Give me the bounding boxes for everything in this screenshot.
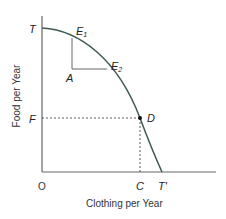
y-axis-title: Food per Year <box>11 64 22 127</box>
label-e1: E1 <box>76 25 87 38</box>
point-d <box>138 116 142 120</box>
label-d: D <box>147 112 155 124</box>
label-a: A <box>65 72 73 84</box>
origin-label: O <box>38 181 46 192</box>
label-f: F <box>29 113 37 125</box>
frontier-curve <box>42 28 162 172</box>
ppf-diagram: T E1 E2 A D F C T' O Clothing per Year F… <box>0 0 226 219</box>
label-t: T <box>29 23 37 35</box>
label-c: C <box>136 180 144 192</box>
label-e2: E2 <box>111 60 122 73</box>
label-t-prime: T' <box>158 180 168 192</box>
x-axis-title: Clothing per Year <box>86 198 163 209</box>
